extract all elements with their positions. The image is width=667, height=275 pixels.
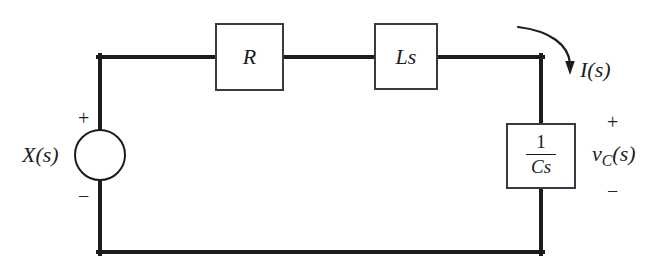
resistor-label: R	[216, 46, 283, 68]
output-voltage-subscript: C	[602, 152, 613, 169]
output-voltage-symbol: v	[592, 141, 602, 166]
source-plus-sign: +	[78, 108, 89, 128]
source-label: X(s)	[22, 144, 59, 166]
output-minus-sign: −	[607, 181, 618, 201]
current-arrowhead-icon	[565, 61, 575, 75]
output-voltage-arguments: (s)	[612, 141, 635, 166]
current-label: I(s)	[580, 59, 611, 81]
output-voltage-label: vC(s)	[592, 143, 636, 169]
inductor-label: Ls	[375, 46, 437, 68]
source-minus-sign: −	[78, 186, 89, 206]
circuit-diagram: X(s) + − R Ls 1 Cs I(s) + vC(s) −	[0, 0, 667, 275]
capacitor-denominator: Cs	[507, 157, 575, 177]
capacitor-impedance-label: 1 Cs	[507, 132, 575, 177]
voltage-source-symbol	[75, 130, 125, 180]
fraction-bar	[526, 154, 556, 155]
capacitor-numerator: 1	[507, 132, 575, 153]
current-arguments: (s)	[587, 57, 610, 82]
output-plus-sign: +	[607, 112, 618, 132]
